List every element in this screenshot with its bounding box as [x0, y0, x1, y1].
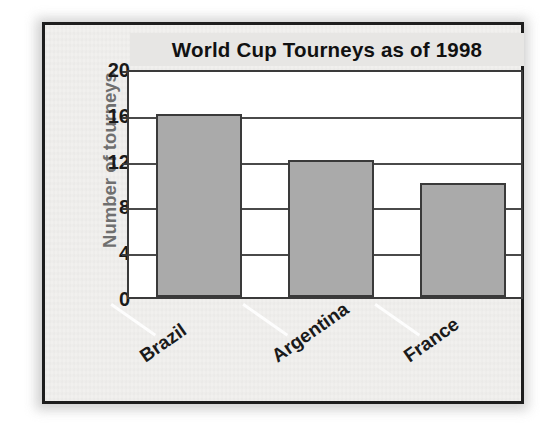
category-leader-line: [243, 303, 289, 336]
y-tick-label: 20: [91, 60, 130, 80]
y-tick-mark: [122, 117, 128, 119]
x-category-label: France: [400, 313, 464, 367]
y-tick-mark: [122, 71, 128, 73]
y-tick-label: 8: [91, 197, 130, 217]
plot-area: [127, 70, 523, 299]
y-axis-tick-labels: 048121620: [91, 70, 130, 299]
bar-france[interactable]: [420, 183, 505, 298]
category-leader-line: [111, 303, 157, 336]
y-tick-label: 12: [91, 152, 130, 172]
bar-brazil[interactable]: [156, 114, 241, 297]
y-tick-mark: [122, 208, 128, 210]
page-root: World Cup Tourneys as of 1998 Number of …: [0, 0, 557, 427]
y-tick-label: 4: [91, 243, 130, 263]
bar-argentina[interactable]: [288, 160, 373, 297]
chart-title: World Cup Tourneys as of 1998: [130, 33, 524, 66]
y-tick-mark: [122, 254, 128, 256]
y-tick-mark: [122, 163, 128, 165]
category-leader-line: [375, 303, 421, 336]
y-tick-label: 16: [91, 106, 130, 126]
chart-figure-frame: World Cup Tourneys as of 1998 Number of …: [42, 22, 524, 404]
x-axis-category-labels: BrazilArgentinaFrance: [45, 299, 521, 403]
